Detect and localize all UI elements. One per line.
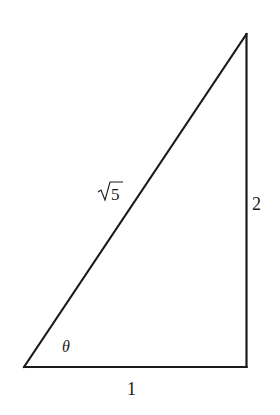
horizontal-side-label: 1	[127, 379, 136, 399]
hypotenuse	[24, 34, 247, 367]
angle-label: θ	[62, 338, 70, 355]
right-triangle-diagram: 5 2 θ 1	[0, 0, 280, 415]
hypotenuse-radicand: 5	[111, 185, 120, 204]
vertical-side-label: 2	[252, 194, 261, 214]
hypotenuse-label: 5	[98, 182, 123, 204]
triangle-svg: 5 2 θ 1	[0, 0, 280, 415]
